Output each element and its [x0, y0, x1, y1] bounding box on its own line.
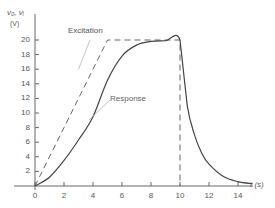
x-tick-label: 0 [20, 192, 50, 200]
y-tick-label: 12 [0, 94, 30, 102]
x-tick-label: 10 [165, 192, 195, 200]
x-tick-label: 6 [107, 192, 137, 200]
y-tick-label: 2 [0, 167, 30, 175]
series-response [35, 35, 253, 186]
x-tick-label: 4 [78, 192, 108, 200]
y-tick-label: 10 [0, 109, 30, 117]
annotation-excitation: Excitation [68, 27, 103, 35]
x-ticks [35, 182, 238, 186]
x-tick-label: 2 [49, 192, 79, 200]
annotation-leaders [79, 40, 111, 120]
y-tick-label: 18 [0, 51, 30, 59]
y-ticks [35, 40, 39, 171]
y-axis-label-line2: (V) [10, 20, 19, 27]
x-tick-label: 8 [136, 192, 166, 200]
y-axis-label-line1: v₀, vᵢ [7, 9, 24, 17]
y-tick-label: 20 [0, 36, 30, 44]
y-tick-label: 16 [0, 65, 30, 73]
y-tick-label: 6 [0, 138, 30, 146]
series-excitation [35, 40, 180, 186]
x-tick-label: 14 [223, 192, 253, 200]
x-tick-label: 12 [194, 192, 224, 200]
chart-canvas [0, 0, 275, 208]
y-tick-label: 14 [0, 80, 30, 88]
y-tick-label: 8 [0, 124, 30, 132]
series-layer [35, 35, 253, 186]
x-axis-label: t (s) [250, 181, 264, 189]
y-tick-label: 4 [0, 153, 30, 161]
annotation-response: Response [110, 95, 146, 103]
